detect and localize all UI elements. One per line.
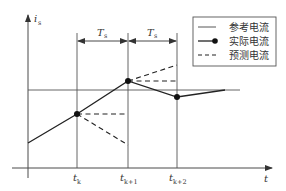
time-tick-labels: t k t k+1 t k+2	[73, 172, 187, 186]
y-axis-label: i	[34, 13, 37, 24]
x-axis: t	[12, 168, 272, 184]
legend: 参考电流 实际电流 预测电流	[193, 17, 276, 66]
ts-label-2-sub: s	[154, 32, 157, 40]
sampling-period-dimensions: T s T s	[78, 27, 176, 41]
tick-label-tk-sub: k	[77, 178, 81, 186]
y-axis-label-sub: s	[38, 19, 41, 27]
legend-label-actual: 实际电流	[229, 35, 269, 47]
tick-label-tk2-sub: k+2	[173, 178, 187, 186]
ts-label-1-sub: s	[104, 32, 107, 40]
legend-dot-actual	[212, 38, 218, 44]
time-gridlines	[77, 33, 177, 168]
tick-label-tk1-sub: k+1	[124, 178, 138, 186]
actual-sample-point-tk2	[174, 94, 180, 100]
actual-current-curve	[28, 78, 225, 143]
prediction-tk-down	[77, 114, 128, 145]
actual-sample-point-tk	[74, 111, 80, 117]
x-axis-label: t	[264, 173, 269, 184]
y-axis: i s	[28, 13, 41, 178]
prediction-tk1-up	[128, 65, 177, 81]
diagram-canvas: i s t t k t k+1 t k+2 T s T s	[0, 0, 286, 191]
actual-sample-point-tk1	[125, 78, 131, 84]
legend-label-predicted: 预测电流	[229, 49, 269, 61]
legend-label-reference: 参考电流	[229, 21, 269, 33]
